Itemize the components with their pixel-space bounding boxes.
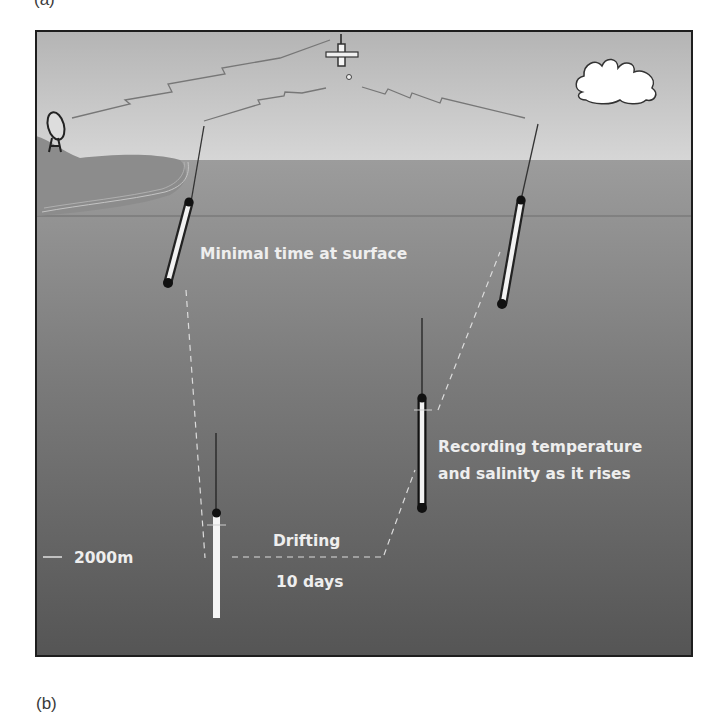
ocean <box>36 160 692 656</box>
label-rising-line1: Recording temperature <box>438 438 642 456</box>
label-duration: 10 days <box>276 573 343 591</box>
argo-float-diagram: Minimal time at surface Recording temper… <box>0 0 719 726</box>
label-rising-line2: and salinity as it rises <box>438 465 631 483</box>
panel-label-b: (b) <box>36 694 57 714</box>
label-drifting: Drifting <box>273 532 340 550</box>
label-depth: 2000m <box>74 549 133 567</box>
label-surface: Minimal time at surface <box>200 245 407 263</box>
